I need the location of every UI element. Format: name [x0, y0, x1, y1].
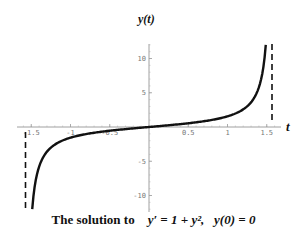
- chart-title: y(t): [136, 12, 155, 26]
- caption-equation: y′ = 1 + y²,: [148, 212, 205, 227]
- chart: y(t) -1.5-1-0.50.511.5 -10-5510 t: [0, 0, 307, 246]
- y-tick-label: 5: [142, 89, 146, 97]
- x-tick-label: 0.5: [182, 129, 195, 137]
- chart-caption: The solution to y′ = 1 + y², y(0) = 0: [0, 212, 307, 228]
- x-tick-label: 1: [225, 129, 229, 137]
- y-tick-label: 10: [138, 55, 146, 63]
- x-axis-label: t: [286, 119, 290, 134]
- y-tick-label: -10: [133, 192, 146, 200]
- caption-initial-condition: y(0) = 0: [214, 212, 255, 227]
- x-tick-label: 1.5: [260, 129, 273, 137]
- y-tick-label: -5: [138, 158, 146, 166]
- caption-text: The solution to: [52, 212, 135, 227]
